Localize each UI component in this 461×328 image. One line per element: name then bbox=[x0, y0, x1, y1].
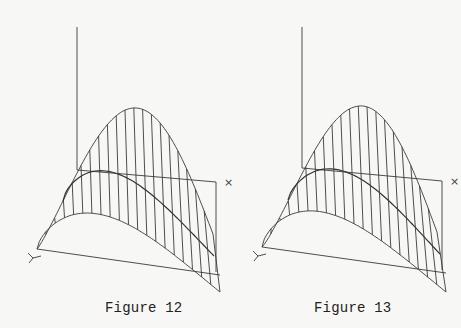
figure-12-caption: Figure 12 bbox=[105, 300, 182, 316]
mesh-ruling bbox=[420, 186, 428, 277]
mesh-ruling bbox=[72, 183, 73, 215]
mesh-ruling bbox=[169, 135, 174, 255]
surface-upper-curve bbox=[262, 106, 437, 247]
mesh-ruling bbox=[125, 110, 129, 225]
mesh-ruling bbox=[323, 137, 326, 213]
mesh-ruling bbox=[367, 107, 372, 235]
mesh-ruling bbox=[63, 200, 64, 218]
mesh-ruling bbox=[350, 109, 355, 224]
mesh-ruling bbox=[178, 151, 184, 263]
back-edge bbox=[77, 170, 216, 182]
mesh-ruling bbox=[288, 201, 289, 215]
mesh-ruling bbox=[306, 167, 308, 211]
mesh-ruling bbox=[134, 108, 138, 230]
mesh-ruling bbox=[213, 234, 220, 292]
figure-13-plot: × bbox=[253, 27, 459, 292]
x-axis-label: × bbox=[224, 176, 233, 189]
mesh-ruling bbox=[385, 120, 391, 248]
mesh-ruling bbox=[437, 232, 446, 292]
figure-12-plot: × bbox=[28, 27, 233, 292]
mesh-ruling bbox=[151, 114, 156, 241]
mesh-ruling bbox=[280, 218, 281, 220]
mesh-ruling bbox=[332, 125, 336, 216]
mesh-ruling bbox=[143, 109, 147, 235]
floor-edge bbox=[37, 249, 220, 275]
figure-13-caption: Figure 13 bbox=[314, 300, 391, 316]
mesh-ruling bbox=[402, 147, 409, 262]
mesh-ruling bbox=[358, 106, 363, 229]
y-axis-label bbox=[28, 253, 41, 263]
mesh-ruling bbox=[315, 151, 318, 212]
mesh-ruling bbox=[99, 136, 101, 215]
mesh-ruling bbox=[297, 183, 299, 212]
mesh-ruling bbox=[341, 115, 345, 219]
mesh-ruling bbox=[90, 150, 92, 213]
mesh-ruling bbox=[160, 123, 165, 248]
mesh-ruling bbox=[376, 111, 382, 241]
mesh-ruling bbox=[393, 132, 400, 255]
back-edge bbox=[302, 168, 442, 181]
y-axis-label bbox=[253, 251, 266, 261]
x-axis-label: × bbox=[450, 175, 459, 188]
mesh-ruling bbox=[116, 116, 119, 221]
surface-middle-curve bbox=[288, 169, 440, 254]
mesh-ruling bbox=[55, 218, 56, 223]
mesh-ruling bbox=[81, 166, 83, 214]
mesh-ruling bbox=[187, 169, 193, 270]
wireframe-canvas: ×× bbox=[0, 0, 461, 328]
